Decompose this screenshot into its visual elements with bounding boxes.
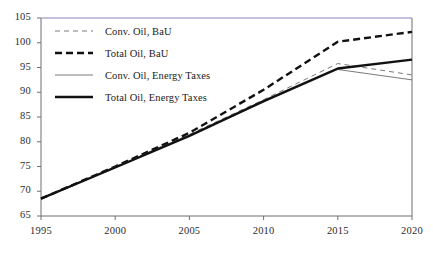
legend-label-0: Conv. Oil, BaU	[105, 26, 172, 37]
x-tick-2000: 2000	[95, 225, 135, 236]
legend-item-2: Conv. Oil, Energy Taxes	[55, 64, 245, 86]
y-tick-80: 80	[5, 135, 31, 146]
chart-legend: Conv. Oil, BaUTotal Oil, BaUConv. Oil, E…	[55, 20, 245, 108]
y-tick-90: 90	[5, 85, 31, 96]
legend-label-3: Total Oil, Energy Taxes	[105, 92, 207, 103]
legend-swatch-icon-1	[55, 47, 93, 59]
oil-production-line-chart: 65707580859095100105 1995200020052010201…	[0, 0, 433, 264]
legend-label-2: Conv. Oil, Energy Taxes	[105, 70, 210, 81]
y-tick-105: 105	[5, 11, 31, 22]
legend-swatch-icon-2	[55, 69, 93, 81]
y-tick-65: 65	[5, 209, 31, 220]
y-tick-85: 85	[5, 110, 31, 121]
legend-swatch-icon-3	[55, 91, 93, 103]
legend-item-3: Total Oil, Energy Taxes	[55, 86, 245, 108]
legend-swatch-icon-0	[55, 25, 93, 37]
x-tick-2005: 2005	[169, 225, 209, 236]
x-tick-2010: 2010	[244, 225, 284, 236]
x-tick-2020: 2020	[392, 225, 432, 236]
x-tick-1995: 1995	[21, 225, 61, 236]
y-tick-70: 70	[5, 184, 31, 195]
y-tick-95: 95	[5, 61, 31, 72]
legend-item-0: Conv. Oil, BaU	[55, 20, 245, 42]
x-tick-2015: 2015	[318, 225, 358, 236]
y-tick-75: 75	[5, 160, 31, 171]
legend-label-1: Total Oil, BaU	[105, 48, 168, 59]
legend-item-1: Total Oil, BaU	[55, 42, 245, 64]
y-tick-100: 100	[5, 36, 31, 47]
